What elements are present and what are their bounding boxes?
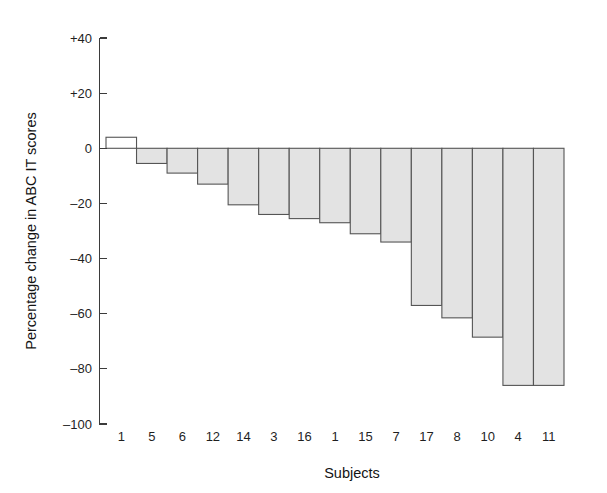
bar — [137, 148, 168, 163]
x-tick-labels-group: 1561214316115717810411 — [118, 429, 556, 444]
x-axis-tick-label: 16 — [297, 429, 311, 444]
bar — [381, 148, 412, 242]
y-axis-tick-label: 0 — [85, 141, 92, 156]
x-axis-tick-label: 10 — [480, 429, 494, 444]
y-axis-tick-label: –80 — [70, 361, 92, 376]
bar — [472, 148, 503, 337]
y-axis-tick-label: –20 — [70, 196, 92, 211]
axis-group — [100, 38, 107, 425]
bar — [289, 148, 320, 218]
bar — [350, 148, 381, 233]
bar — [320, 148, 351, 222]
y-axis-line — [100, 38, 107, 425]
bar — [533, 148, 564, 385]
x-axis-tick-label: 5 — [148, 429, 155, 444]
bar-chart-figure: +40+200–20–40–60–80–100 1561214316115717… — [0, 0, 607, 493]
y-axis-tick-label: –40 — [70, 251, 92, 266]
x-axis-tick-label: 7 — [392, 429, 399, 444]
bar — [106, 137, 137, 148]
x-axis-tick-label: 8 — [454, 429, 461, 444]
bar — [167, 148, 198, 173]
y-axis-tick-label: –60 — [70, 306, 92, 321]
y-axis-title: Percentage change in ABC IT scores — [23, 112, 39, 350]
bar — [503, 148, 534, 385]
bars-group — [106, 137, 564, 385]
bar — [411, 148, 442, 305]
x-axis-tick-label: 6 — [179, 429, 186, 444]
x-axis-tick-label: 12 — [206, 429, 220, 444]
bar — [228, 148, 259, 205]
bar — [198, 148, 229, 184]
chart-plot-area: +40+200–20–40–60–80–100 1561214316115717… — [0, 0, 607, 493]
x-axis-title: Subjects — [324, 465, 380, 481]
x-axis-tick-label: 1 — [331, 429, 338, 444]
x-axis-tick-label: 1 — [118, 429, 125, 444]
y-axis-tick-label: +40 — [70, 31, 92, 46]
y-ticks-group: +40+200–20–40–60–80–100 — [63, 31, 107, 432]
x-axis-tick-label: 4 — [515, 429, 522, 444]
bar — [442, 148, 473, 318]
x-axis-tick-label: 3 — [270, 429, 277, 444]
y-axis-tick-label: +20 — [70, 86, 92, 101]
x-axis-tick-label: 14 — [236, 429, 250, 444]
x-axis-tick-label: 17 — [419, 429, 433, 444]
y-axis-tick-label: –100 — [63, 417, 92, 432]
x-axis-tick-label: 11 — [542, 429, 556, 444]
bar — [259, 148, 290, 214]
x-axis-tick-label: 15 — [358, 429, 372, 444]
